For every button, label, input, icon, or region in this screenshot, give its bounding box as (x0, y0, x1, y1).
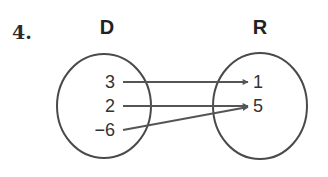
domain-value: −6 (94, 120, 115, 140)
domain-value: 2 (105, 96, 115, 116)
domain-value: 3 (105, 72, 115, 92)
mapping-diagram: 4. D R 3 2 −6 1 5 (0, 0, 328, 177)
range-value: 1 (253, 72, 263, 92)
range-value: 5 (253, 96, 263, 116)
domain-label: D (100, 16, 114, 38)
problem-number: 4. (12, 21, 32, 43)
range-label: R (253, 16, 268, 38)
arrow-neg6-to-5 (123, 107, 248, 130)
